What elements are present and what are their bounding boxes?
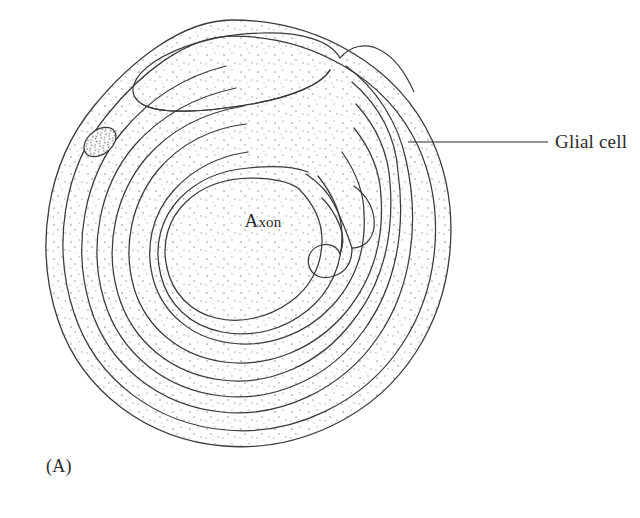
- axon-label: Axon: [218, 210, 308, 232]
- myelinated-axon-diagram: [0, 0, 640, 518]
- glial-cell-label: Glial cell: [555, 131, 627, 153]
- glial-cell-body: [46, 20, 451, 447]
- glial-cell-outer-membrane: [46, 20, 451, 447]
- axon-label-rest: xon: [258, 214, 281, 230]
- figure-panel-a: Glial cell Axon (A): [0, 0, 640, 518]
- panel-label: (A): [46, 456, 72, 477]
- axon-label-initial: A: [244, 210, 258, 231]
